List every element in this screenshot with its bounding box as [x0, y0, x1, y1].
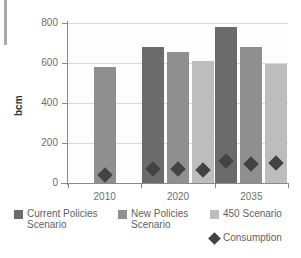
y-axis-tick: [62, 183, 67, 184]
legend-label: Current Policies Scenario: [27, 208, 98, 230]
x-axis-tick-label: 2035: [226, 191, 276, 202]
y-axis-tick-label: 200: [24, 138, 58, 148]
x-axis-tick: [68, 183, 69, 188]
legend-item-450-scenario[interactable]: 450 Scenario: [210, 208, 301, 219]
legend-item-current-policies[interactable]: Current Policies Scenario: [14, 208, 122, 230]
x-axis-line: [61, 183, 289, 184]
square-swatch-icon: [118, 210, 127, 219]
x-axis-tick: [215, 183, 216, 188]
gas-demand-chart: bcm 0200400600800 201020202035 Current P…: [0, 0, 301, 258]
y-axis-tick: [62, 103, 67, 104]
x-axis-tick: [141, 183, 142, 188]
x-axis-tick-label: 2020: [153, 191, 203, 202]
chart-legend: Current Policies Scenario New Policies S…: [0, 206, 301, 258]
legend-item-new-policies[interactable]: New Policies Scenario: [118, 208, 214, 230]
plot-area: [68, 23, 288, 183]
y-axis-tick: [62, 63, 67, 64]
bar-nps-2010: [94, 67, 116, 183]
x-axis-tick: [288, 183, 289, 188]
diamond-marker-icon: [208, 232, 221, 245]
legend-label: New Policies Scenario: [131, 208, 188, 230]
y-axis-tick-label: 600: [24, 58, 58, 68]
square-swatch-icon: [14, 210, 23, 219]
y-axis-tick: [62, 143, 67, 144]
gridline: [68, 23, 288, 24]
legend-label: 450 Scenario: [223, 208, 282, 219]
y-axis-tick-label: 0: [24, 178, 58, 188]
y-axis-tick-label: 400: [24, 98, 58, 108]
legend-item-consumption[interactable]: Consumption: [210, 232, 301, 243]
legend-label: Consumption: [223, 232, 282, 243]
y-axis-tick-label: 800: [24, 18, 58, 28]
square-swatch-icon: [210, 210, 219, 219]
x-axis-tick-label: 2010: [80, 191, 130, 202]
y-axis-tick: [62, 23, 67, 24]
